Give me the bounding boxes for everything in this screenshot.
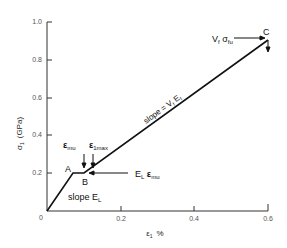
slope-vfef-label: slope = Vf Ef xyxy=(142,92,184,126)
vf-sigma-arrow xyxy=(234,36,265,40)
x-ticks: 0.2 0.4 0.6 xyxy=(116,204,273,222)
eps-1max-label: ε1max xyxy=(89,140,108,151)
slope-el-label: slope EL xyxy=(68,192,102,203)
eps-mu-label: εmu xyxy=(63,140,76,151)
y-axis-label: σ1(GPa) xyxy=(15,117,25,150)
x-tick-label: 0.4 xyxy=(189,215,199,222)
y-tick-label: 0.8 xyxy=(32,56,42,63)
y-tick-label: 0.4 xyxy=(32,131,42,138)
point-a-label: A xyxy=(65,164,71,174)
point-b-label: B xyxy=(82,177,88,187)
el-eps-mu-arrow xyxy=(89,171,128,175)
origin-label: 0 xyxy=(39,214,43,221)
y-tick-label: 0.2 xyxy=(32,169,42,176)
x-tick-label: 0.6 xyxy=(263,215,273,222)
x-tick-label: 0.2 xyxy=(116,215,126,222)
down-arrows xyxy=(82,154,95,168)
el-eps-mu-label: EL εmu xyxy=(135,169,159,180)
vf-sigma-fu-label: Vf σfu xyxy=(212,34,233,45)
y-tick-label: 0.6 xyxy=(32,94,42,101)
x-axis-label: ε1% xyxy=(146,229,163,239)
stress-strain-curve xyxy=(47,40,268,211)
stress-strain-chart: 1.0 0.8 0.6 0.4 0.2 0 0.2 0.4 0.6 ε1% σ1… xyxy=(0,0,287,248)
y-ticks: 1.0 0.8 0.6 0.4 0.2 0 xyxy=(32,18,52,221)
y-tick-label: 1.0 xyxy=(32,18,42,25)
point-c-label: C xyxy=(263,27,270,37)
